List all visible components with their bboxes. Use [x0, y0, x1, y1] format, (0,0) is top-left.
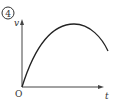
figure-number: 4 — [5, 9, 11, 19]
origin-label: O — [15, 89, 22, 99]
x-axis-label: t — [105, 91, 109, 101]
x-axis-arrow-icon — [98, 85, 104, 89]
y-axis-arrow-icon — [20, 19, 24, 25]
figure-number-badge: 4 — [2, 7, 14, 19]
v-t-graph: 4 v t O — [0, 0, 117, 104]
y-axis-label: v — [14, 18, 19, 28]
velocity-curve — [22, 24, 108, 87]
